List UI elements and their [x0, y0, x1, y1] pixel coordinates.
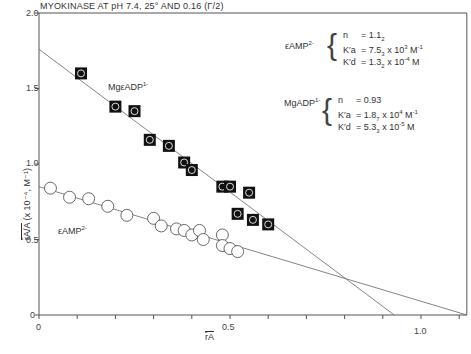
n-value: = 0.93: [356, 95, 381, 105]
circle-marker: [121, 209, 133, 221]
kd-unit: M: [404, 122, 414, 132]
chart-title: MYOKINASE AT pH 7.4, 25° AND 0.16 (Γ/2): [40, 1, 224, 11]
square-marker: [262, 218, 274, 230]
n-value: = 1.1: [361, 30, 381, 40]
square-marker: [224, 181, 236, 193]
series-label-eamp: εAMP2-: [58, 225, 87, 236]
square-marker: [163, 140, 175, 152]
n-sub: 2: [381, 36, 384, 42]
annotation-mgadp: MgADP1- { n= 0.93 K′a= 1.87 x 104 M-1 K′…: [284, 95, 464, 135]
x-tick-label: 1.0: [414, 326, 427, 336]
annotation-eamp: εAMP2- { n= 1.12 K′a= 7.53 x 103 M-1 K′d…: [285, 30, 465, 70]
kd-label: K′d: [338, 122, 356, 133]
square-marker: [144, 134, 156, 146]
series-label-text: MgεADP: [108, 82, 143, 92]
circle-marker: [197, 234, 209, 246]
series-label-mgeadp: MgεADP1-: [108, 81, 148, 92]
n-label: n: [343, 30, 361, 41]
annotation-species: εAMP2-: [285, 38, 314, 52]
annotation-n: n= 0.93: [338, 95, 381, 106]
brace: {: [327, 30, 337, 60]
square-marker: [129, 105, 141, 117]
kd-value: = 5.3: [356, 122, 376, 132]
circle-marker: [102, 200, 114, 212]
kd-unit: M: [409, 57, 419, 67]
y-tick-label: 1.5: [26, 83, 39, 93]
square-marker: [75, 67, 87, 79]
circle-marker: [83, 193, 95, 205]
circle-marker: [232, 246, 244, 258]
kd-value: = 1.3: [361, 57, 381, 67]
species-name: MgADP: [284, 98, 315, 108]
annotation-species: MgADP1-: [284, 95, 320, 109]
series-label-charge: 2-: [82, 225, 87, 231]
y-tick-label: 2.0: [26, 8, 39, 18]
brace: {: [322, 95, 332, 125]
y-axis-fraction: r̄A/A: [22, 223, 32, 240]
n-label: n: [338, 95, 356, 106]
fit-lines: [39, 49, 467, 315]
kd-mult: x 10: [380, 122, 400, 132]
species-charge: 2-: [309, 40, 314, 46]
x-tick-label: 0.5: [222, 322, 235, 332]
annotation-kd: K′d= 5.33 x 10-5 M: [338, 119, 414, 137]
series-label-text: εAMP: [58, 226, 82, 236]
kd-mult: x 10: [385, 57, 405, 67]
y-tick-label: 0: [30, 310, 35, 320]
circle-marker: [155, 220, 167, 232]
annotation-kd: K′d= 1.32 x 10-4 M: [343, 54, 419, 72]
circle-marker: [44, 182, 56, 194]
square-marker: [186, 164, 198, 176]
square-marker: [243, 187, 255, 199]
species-name: εAMP: [285, 41, 309, 51]
square-marker: [232, 208, 244, 220]
x-tick-label: 0: [36, 322, 41, 332]
series-label-charge: 1-: [143, 81, 148, 87]
square-marker: [247, 214, 259, 226]
square-marker: [109, 101, 121, 113]
x-axis-label-text: r̄A: [205, 332, 214, 342]
species-charge: 1-: [315, 97, 320, 103]
ka-unit-exp: -1: [417, 44, 422, 50]
y-axis-label: r̄A/A (x 10⁻⁴, M⁻¹): [22, 130, 32, 240]
x-axis-label: r̄A: [205, 332, 214, 342]
kd-label: K′d: [343, 57, 361, 68]
circle-marker: [64, 191, 76, 203]
ka-unit-exp: -1: [412, 109, 417, 115]
y-axis-units: (x 10⁻⁴, M⁻¹): [22, 168, 32, 220]
